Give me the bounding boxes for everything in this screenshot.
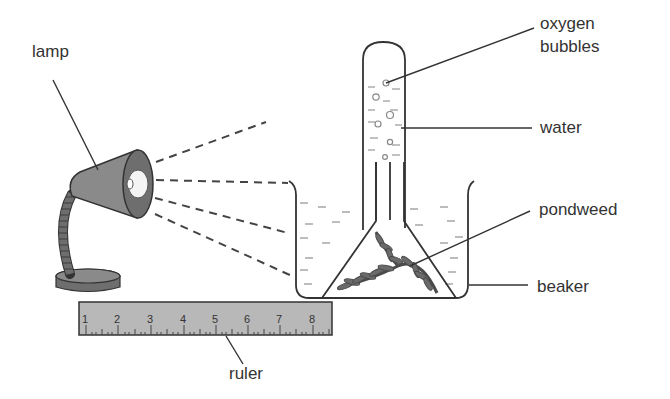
label-lamp: lamp	[32, 42, 69, 62]
label-beaker: beaker	[537, 277, 589, 297]
oxygen-bubbles	[373, 80, 394, 159]
ruler-tick-4: 4	[180, 309, 186, 329]
ruler-tick-1: 1	[82, 309, 88, 329]
pondweed-icon	[337, 232, 437, 293]
ruler-tick-5: 5	[212, 309, 218, 329]
label-water: water	[540, 118, 582, 138]
ruler-tick-2: 2	[114, 309, 120, 329]
lamp-icon	[56, 150, 153, 292]
ruler-tick-8: 8	[309, 309, 315, 329]
ruler-tick-7: 7	[276, 309, 282, 329]
label-pondweed: pondweed	[539, 200, 617, 220]
test-tube-icon	[363, 42, 405, 230]
label-ruler: ruler	[229, 364, 263, 384]
light-rays	[155, 122, 292, 276]
funnel-icon	[322, 162, 456, 298]
label-oxygen-line2: bubbles	[540, 37, 600, 57]
label-oxygen-line1: oxygen	[540, 14, 595, 34]
ruler-tick-6: 6	[244, 309, 250, 329]
ruler-tick-3: 3	[147, 309, 153, 329]
